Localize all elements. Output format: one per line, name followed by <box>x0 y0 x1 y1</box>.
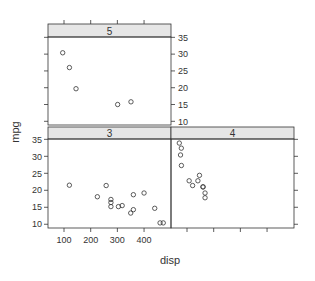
data-point <box>67 183 71 187</box>
data-point <box>109 197 113 201</box>
strip-label: 3 <box>107 128 113 139</box>
panel-border <box>48 139 171 228</box>
data-point <box>197 173 201 177</box>
data-point <box>104 183 108 187</box>
data-point <box>177 141 181 145</box>
data-point <box>95 195 99 199</box>
data-point <box>196 179 200 183</box>
strip-label: 5 <box>107 26 113 37</box>
data-point <box>178 153 182 157</box>
y-tick-label: 15 <box>178 100 188 110</box>
data-point <box>203 191 207 195</box>
data-point <box>179 146 183 150</box>
data-point <box>115 102 119 106</box>
data-point <box>190 183 194 187</box>
data-point <box>203 196 207 200</box>
data-point <box>179 163 183 167</box>
data-point <box>187 179 191 183</box>
panel-border <box>48 37 171 125</box>
data-point <box>61 51 65 55</box>
x-tick-label: 200 <box>83 235 98 245</box>
y-tick-label: 10 <box>178 117 188 127</box>
panel-gear-5: 5 <box>48 24 171 125</box>
y-axis-label: mpg <box>9 121 21 142</box>
y-tick-label: 30 <box>178 49 188 59</box>
y-tick-label: 30 <box>32 152 42 162</box>
panels: 345 <box>48 24 294 228</box>
y-tick-label: 20 <box>178 83 188 93</box>
data-point <box>158 221 162 225</box>
x-tick-label: 400 <box>137 235 152 245</box>
data-point <box>129 211 133 215</box>
y-tick-label: 35 <box>32 135 42 145</box>
y-tick-label: 35 <box>178 33 188 43</box>
data-point <box>201 185 205 189</box>
x-axis-label: disp <box>160 254 180 266</box>
y-tick-label: 15 <box>32 202 42 212</box>
data-point <box>129 100 133 104</box>
lattice-scatter-plot: 345 100200300400101015152020252530303535… <box>0 0 315 281</box>
x-tick-label: 300 <box>110 235 125 245</box>
panel-border <box>171 139 294 228</box>
data-point <box>153 206 157 210</box>
y-tick-label: 25 <box>32 169 42 179</box>
y-tick-label: 20 <box>32 185 42 195</box>
data-point <box>67 65 71 69</box>
data-point <box>74 87 78 91</box>
strip-label: 4 <box>230 128 236 139</box>
plot-canvas: 345 100200300400101015152020252530303535… <box>0 0 315 281</box>
data-point <box>142 191 146 195</box>
data-point <box>131 193 135 197</box>
y-tick-label: 10 <box>32 219 42 229</box>
panel-gear-4: 4 <box>171 127 294 228</box>
y-tick-label: 25 <box>178 66 188 76</box>
x-tick-label: 100 <box>56 235 71 245</box>
panel-gear-3: 3 <box>48 127 171 228</box>
